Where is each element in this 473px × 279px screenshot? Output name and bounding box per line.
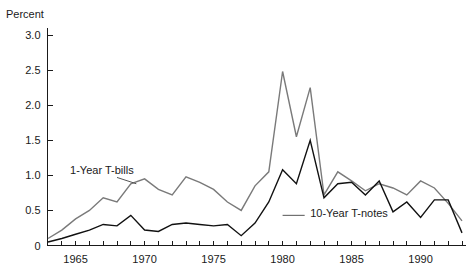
annotation-leader-line [117,177,136,183]
x-axis: 196519701975198019851990 [48,241,467,265]
data-series-group [48,71,462,242]
y-axis-title: Percent [6,8,44,20]
x-tick-label: 1985 [339,253,363,265]
interest-rate-spread-chart: Percent 00.51.01.52.02.53.0 196519701975… [0,0,473,279]
x-tick-label: 1980 [270,253,294,265]
y-tick-label: 1.5 [25,134,40,146]
y-tick-label: 2.0 [25,99,40,111]
x-tick-label: 1975 [201,253,225,265]
series-label-1-year-t-bills: 1-Year T-bills [70,164,134,176]
y-tick-label: 2.5 [25,64,40,76]
y-axis: 00.51.01.52.02.53.0 [25,28,52,252]
y-tick-label: 3.0 [25,29,40,41]
series-line-1-year-t-bills [48,71,462,238]
chart-plot-area: Percent 00.51.01.52.02.53.0 196519701975… [0,0,473,279]
y-tick-label: 0 [34,240,40,252]
series-annotations: 1-Year T-bills10-Year T-notes [70,164,388,220]
x-tick-label: 1970 [132,253,156,265]
y-axis-title-group: Percent [6,8,44,20]
x-tick-label: 1990 [408,253,432,265]
series-label-10-year-t-notes: 10-Year T-notes [310,207,388,219]
x-tick-label: 1965 [63,253,87,265]
y-tick-label: 0.5 [25,204,40,216]
y-tick-label: 1.0 [25,169,40,181]
